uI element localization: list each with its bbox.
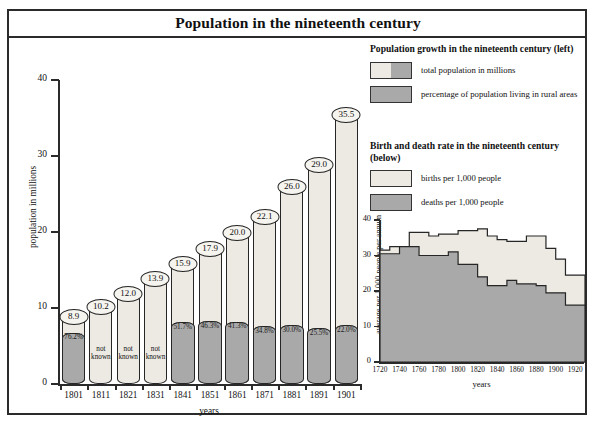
rural-percentage-label: 41.3% — [228, 322, 247, 330]
bar: 34.8%22.1 — [253, 216, 276, 384]
y-tick — [51, 383, 59, 385]
y-tick-label: 40 — [14, 73, 47, 83]
bar-rural-segment — [225, 322, 249, 385]
legend-item: total population in millions — [370, 62, 582, 79]
swatch-light — [370, 170, 412, 187]
bar: 51.7%15.9 — [171, 263, 194, 384]
rural-percentage-label: 46.3% — [201, 322, 220, 330]
bar-value-label: 12.0 — [114, 286, 143, 302]
not-known-label: notknown — [118, 345, 138, 361]
legend-item: deaths per 1,000 people — [370, 194, 582, 211]
bar-rural-segment — [171, 322, 195, 384]
bar: notknown13.9 — [144, 278, 167, 384]
bar: 76.2%8.9 — [62, 316, 85, 384]
bar-value-label: 17.9 — [196, 241, 225, 257]
y-tick-label: 0 — [14, 377, 47, 387]
bar: notknown10.2 — [89, 306, 112, 384]
bar-value-label: 22.1 — [250, 209, 279, 225]
y-tick-label: 10 — [14, 301, 47, 311]
bar-value-label: 10.2 — [86, 299, 115, 315]
rural-percentage-label: 34.8% — [255, 327, 274, 335]
legend-item-label: total population in millions — [421, 65, 515, 76]
bar-value-label: 29.0 — [305, 157, 334, 173]
rural-percentage-label: 22.0% — [337, 326, 356, 334]
bar-value-label: 20.0 — [223, 225, 252, 241]
rural-percentage-label: 51.7% — [173, 323, 192, 331]
bar-value-label: 35.5 — [332, 107, 361, 123]
x-axis-title: years — [58, 406, 360, 416]
legend-title: Population growth in the nineteenth cent… — [370, 43, 582, 55]
x-tick-label: 1920 — [562, 365, 588, 374]
bar: 30.0%26.0 — [280, 186, 303, 384]
not-known-label: notknown — [91, 345, 111, 361]
legend-population-growth: Population growth in the nineteenth cent… — [370, 43, 582, 110]
bar-value-label: 8.9 — [59, 309, 88, 325]
swatch-split-light-dark — [370, 62, 412, 79]
bar: 25.5%29.0 — [308, 164, 331, 384]
bar-rural-segment — [253, 326, 277, 384]
y-tick-label: 30 — [14, 149, 47, 159]
y-tick — [51, 231, 59, 233]
bar: notknown12.0 — [117, 293, 140, 384]
bar-value-label: 15.9 — [168, 256, 197, 272]
title-divider — [9, 36, 585, 38]
legend-item-label: deaths per 1,000 people — [421, 197, 504, 208]
bar-value-label: 13.9 — [141, 271, 170, 287]
legend-item: births per 1,000 people — [370, 170, 582, 187]
bar-rural-segment — [198, 321, 222, 384]
bar-rural-segment — [280, 325, 304, 384]
y-tick — [51, 155, 59, 157]
bar: 41.3%20.0 — [226, 232, 249, 384]
y-tick-label: 20 — [14, 225, 47, 235]
bar: 46.3%17.9 — [199, 248, 222, 384]
not-known-label: notknown — [146, 345, 166, 361]
legend-item: percentage of population living in rural… — [370, 86, 582, 103]
legend-birth-death-rate: Birth and death rate in the nineteenth c… — [370, 140, 582, 218]
y-tick — [51, 307, 59, 309]
birth-death-rate-chart: average per 1,000 people per annum 01020… — [352, 212, 590, 412]
figure-root: Population in the nineteenth century Pop… — [0, 0, 596, 427]
y-tick — [51, 79, 59, 81]
legend-item-label: births per 1,000 people — [421, 173, 501, 184]
bar-group: 76.2%8.9notknown10.2notknown12.0notknown… — [60, 80, 360, 384]
page-title: Population in the nineteenth century — [0, 14, 596, 32]
rural-percentage-label: 25.5% — [310, 329, 329, 337]
population-growth-chart: population in millions years 010203040 7… — [14, 72, 364, 412]
legend-title: Birth and death rate in the nineteenth c… — [370, 140, 582, 163]
x-axis-title: years — [379, 379, 584, 389]
swatch-dark — [370, 86, 412, 103]
x-axis — [58, 384, 360, 386]
rural-percentage-label: 30.0% — [283, 326, 302, 334]
rural-percentage-label: 76.2% — [64, 333, 83, 341]
bar-value-label: 26.0 — [277, 179, 306, 195]
legend-item-label: percentage of population living in rural… — [421, 89, 577, 100]
